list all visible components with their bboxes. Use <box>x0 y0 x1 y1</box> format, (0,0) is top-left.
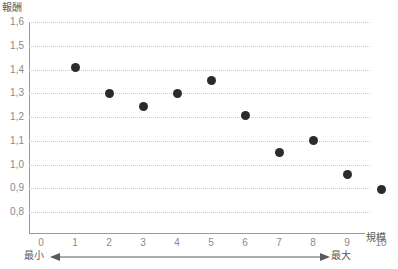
x-axis-tick-label: 1 <box>72 238 78 248</box>
y-axis-tick-label: 1,4 <box>10 65 24 75</box>
x-axis-tick-label: 6 <box>242 238 248 248</box>
data-point <box>241 111 250 120</box>
x-axis-tick-label: 9 <box>344 238 350 248</box>
gridline <box>29 165 370 166</box>
x-axis-tick-label: 0 <box>38 238 44 248</box>
gridline <box>29 22 370 23</box>
data-point <box>343 170 352 179</box>
x-axis-tick-label: 2 <box>106 238 112 248</box>
x-axis-tick-label: 4 <box>174 238 180 248</box>
data-point <box>139 102 148 111</box>
arrow-label-max: 最大 <box>331 250 351 262</box>
scatter-chart: 報酬 規模 1,61,51,41,31,21,11,00,90,8 012345… <box>0 0 398 269</box>
data-point <box>377 185 386 194</box>
y-axis-tick-label: 0,8 <box>10 207 24 217</box>
gridline <box>29 188 370 189</box>
arrow-label-min: 最小 <box>24 250 44 262</box>
double-headed-arrow-icon <box>50 249 330 265</box>
y-axis-tick-label: 1,1 <box>10 136 24 146</box>
plot-area <box>29 22 370 233</box>
gridline <box>29 46 370 47</box>
y-axis-tick-label: 0,9 <box>10 183 24 193</box>
x-axis-tick-label: 5 <box>208 238 214 248</box>
x-axis-line <box>29 233 365 234</box>
data-point <box>275 148 284 157</box>
gridline <box>29 212 370 213</box>
data-point <box>309 136 318 145</box>
x-axis-tick-label: 10 <box>375 238 386 248</box>
scale-annotation: 最小 最大 <box>0 249 398 269</box>
gridline <box>29 93 370 94</box>
x-axis-tick-label: 8 <box>310 238 316 248</box>
y-axis-tick-label: 1,3 <box>10 88 24 98</box>
data-point <box>105 89 114 98</box>
gridline <box>29 117 370 118</box>
gridline <box>29 141 370 142</box>
y-axis-tick-label: 1,0 <box>10 160 24 170</box>
y-axis-tick-label: 1,6 <box>10 17 24 27</box>
data-point <box>207 76 216 85</box>
x-axis-tick-label: 7 <box>276 238 282 248</box>
gridline <box>29 70 370 71</box>
y-axis-tick-label: 1,2 <box>10 112 24 122</box>
data-point <box>173 89 182 98</box>
y-axis-title: 報酬 <box>2 2 22 14</box>
x-axis-tick-label: 3 <box>140 238 146 248</box>
y-axis-tick-label: 1,5 <box>10 41 24 51</box>
data-point <box>71 63 80 72</box>
